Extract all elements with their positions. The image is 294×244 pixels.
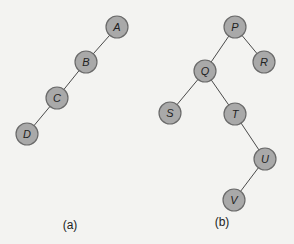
node-label: U <box>261 153 269 165</box>
node-label: D <box>23 128 31 140</box>
tree-node-p: P <box>224 16 246 38</box>
node-label: P <box>231 21 239 33</box>
tree-node-u: U <box>254 148 276 170</box>
tree-node-r: R <box>253 51 275 73</box>
tree-node-b: B <box>75 51 97 73</box>
binary-tree-diagram: ABCDPQRSTUV (a) (b) <box>0 0 294 244</box>
tree-node-c: C <box>46 87 68 109</box>
tree-node-a: A <box>106 16 128 38</box>
node-label: C <box>53 92 61 104</box>
tree-node-s: S <box>159 102 181 124</box>
node-label: S <box>166 107 174 119</box>
node-label: A <box>112 21 120 33</box>
tree-node-d: D <box>16 123 38 145</box>
tree-node-t: T <box>224 103 246 125</box>
caption-b: (b) <box>215 215 230 229</box>
caption-a: (a) <box>63 218 78 232</box>
tree-node-v: V <box>223 189 245 211</box>
node-label: R <box>260 56 268 68</box>
node-label: B <box>82 56 89 68</box>
nodes-layer: ABCDPQRSTUV <box>16 16 276 211</box>
node-label: Q <box>201 65 210 77</box>
tree-node-q: Q <box>194 60 216 82</box>
